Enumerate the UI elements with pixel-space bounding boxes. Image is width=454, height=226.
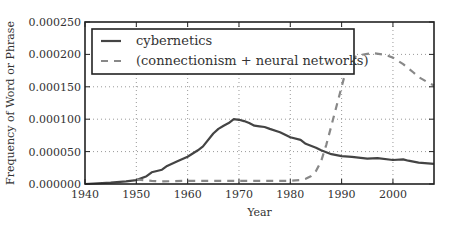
legend: cybernetics (connectionism + neural netw… [92, 29, 369, 74]
y-tick-label: 0.000150 [29, 81, 82, 94]
x-tick-label: 1960 [174, 188, 202, 201]
y-tick-labels: 0.0000000.0000500.0001000.0001500.000200… [29, 16, 82, 191]
x-axis-label: Year [246, 206, 272, 219]
y-tick-label: 0.000000 [29, 178, 82, 191]
x-tick-label: 1970 [225, 188, 253, 201]
y-tick-label: 0.000100 [29, 113, 82, 126]
y-tick-label: 0.000050 [29, 146, 82, 159]
y-axis-label: Frequency of Word or Phrase [4, 21, 17, 185]
x-tick-label: 1950 [122, 188, 150, 201]
x-tick-labels: 1940195019601970198019902000 [71, 188, 407, 201]
x-tick-label: 1990 [328, 188, 356, 201]
y-tick-label: 0.000200 [29, 48, 82, 61]
chart: 1940195019601970198019902000 0.0000000.0… [0, 0, 454, 226]
legend-label-connectionism: (connectionism + neural networks) [136, 53, 369, 68]
x-tick-label: 1980 [276, 188, 304, 201]
y-tick-label: 0.000250 [29, 16, 82, 29]
legend-label-cybernetics: cybernetics [136, 33, 212, 48]
x-tick-label: 2000 [379, 188, 407, 201]
